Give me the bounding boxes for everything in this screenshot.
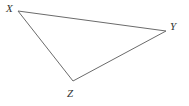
vertex-label-y: Y xyxy=(170,21,176,32)
triangle-xyz-outline xyxy=(18,11,166,81)
vertex-label-z: Z xyxy=(67,88,73,99)
triangle-svg xyxy=(0,0,189,106)
vertex-label-x: X xyxy=(6,3,13,14)
geometry-figure: X Y Z xyxy=(0,0,189,106)
